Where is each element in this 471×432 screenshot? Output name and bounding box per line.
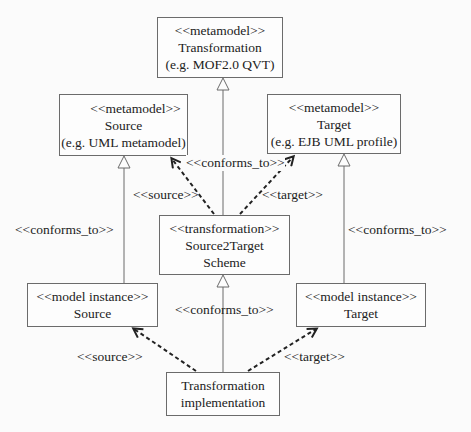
node-name: Transformation xyxy=(181,377,265,394)
edge-label-target-conforms: <<conforms_to>> xyxy=(348,222,447,238)
node-name: Source xyxy=(105,117,143,134)
transformation-metamodel-box: <<metamodel>> Transformation (e.g. MOF2.… xyxy=(157,17,283,78)
node-example: (e.g. MOF2.0 QVT) xyxy=(165,56,274,73)
node-name: Target xyxy=(344,305,378,322)
impl-source-arrow xyxy=(134,329,196,371)
stereotype: <<model instance>> xyxy=(305,288,417,305)
target-metamodel-box: <<metamodel>> Target (e.g. EJB UML profi… xyxy=(267,94,401,154)
edge-label-impl-conforms: <<conforms_to>> xyxy=(175,302,274,318)
conforms-line-scheme xyxy=(217,78,229,215)
node-example: (e.g. EJB UML profile) xyxy=(271,133,398,150)
edge-label-source-conforms: <<conforms_to>> xyxy=(15,222,114,238)
source-instance-box: <<model instance>> Source xyxy=(27,283,158,327)
edge-label-scheme-source: <<source>> xyxy=(133,187,199,203)
stereotype: <<metamodel>> xyxy=(66,100,180,117)
stereotype: <<transformation>> xyxy=(170,220,280,237)
node-name-line2: Scheme xyxy=(203,254,246,271)
conforms-line-impl xyxy=(217,275,229,372)
stereotype: <<model instance>> xyxy=(37,288,149,305)
node-name: Target xyxy=(317,116,351,133)
edge-label-impl-target: <<target>> xyxy=(284,349,345,365)
source-metamodel-box: <<metamodel>> Source (e.g. UML metamodel… xyxy=(59,94,188,156)
node-name: Source xyxy=(74,305,112,322)
target-instance-box: <<model instance>> Target xyxy=(296,283,426,327)
implementation-box: Transformation implementation xyxy=(166,372,280,416)
edge-label-scheme-conforms: <<conforms_to>> xyxy=(186,155,285,171)
conforms-line-target xyxy=(338,154,350,283)
edge-label-impl-source: <<source>> xyxy=(77,349,143,365)
node-name-line2: implementation xyxy=(181,394,266,411)
node-name: Source2Target xyxy=(185,237,263,254)
stereotype: <<metamodel>> xyxy=(289,99,379,116)
node-example: (e.g. UML metamodel) xyxy=(61,134,186,151)
conforms-line-source xyxy=(118,156,130,283)
node-name: Transformation xyxy=(178,39,262,56)
stereotype: <<metamodel>> xyxy=(175,22,265,39)
edge-label-scheme-target: <<target>> xyxy=(262,187,323,203)
scheme-box: <<transformation>> Source2Target Scheme xyxy=(159,215,290,275)
